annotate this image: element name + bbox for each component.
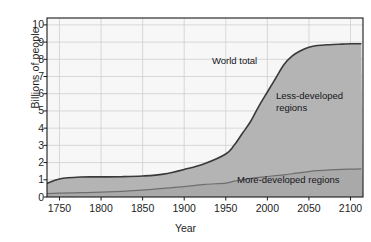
plot-area — [0, 0, 371, 242]
annotation-less-developed-regions: Less-developed regions — [276, 90, 343, 113]
annotation-world-total: World total — [212, 55, 257, 67]
annotation-more-developed-regions: More-developed regions — [237, 174, 339, 186]
figure-caption — [4, 234, 154, 242]
figure-population-projection: Billions of people 012345678910 17501800… — [0, 0, 371, 242]
